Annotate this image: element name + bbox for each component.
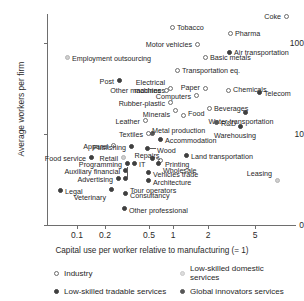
data-point[interactable]	[122, 206, 127, 211]
data-point[interactable]	[214, 120, 219, 125]
data-point[interactable]	[226, 88, 231, 93]
data-point[interactable]	[158, 137, 163, 142]
y-tick-mark	[44, 225, 48, 226]
data-point[interactable]	[203, 86, 208, 91]
data-point-label: Motor vehicles	[146, 41, 192, 48]
legend-label: Low-skilled tradable services	[64, 287, 166, 296]
data-point[interactable]	[121, 155, 126, 160]
data-point[interactable]	[195, 42, 200, 47]
y-tick-label: 100	[263, 39, 304, 48]
y-tick-label: 0	[263, 221, 304, 230]
data-point-label: Rubber-plastic	[119, 100, 165, 107]
label-leader-line	[127, 167, 128, 178]
x-tick-mark	[77, 225, 78, 229]
data-point[interactable]	[132, 161, 137, 166]
data-point[interactable]	[129, 144, 134, 149]
data-point[interactable]	[156, 161, 161, 166]
data-point-label: Telecom	[264, 90, 291, 97]
y-axis-title: Average workers per firm	[16, 34, 26, 184]
data-point-label: Land transportation	[191, 153, 253, 160]
x-tick-label: 0.1	[62, 231, 92, 240]
data-point[interactable]	[175, 68, 180, 73]
legend-item-industry[interactable]: Industry	[54, 264, 180, 282]
data-point[interactable]	[207, 106, 212, 111]
data-point-label: R&D	[221, 120, 236, 127]
x-axis-title: Capital use per worker relative to manuf…	[0, 246, 304, 255]
legend-item-global[interactable]: Global innovators services	[180, 287, 294, 296]
legend-item-lowtrade[interactable]: Low-skilled tradable services	[54, 287, 180, 296]
x-tick-mark	[173, 225, 174, 229]
data-point-label: Air transportation	[234, 49, 289, 56]
data-point[interactable]	[184, 153, 189, 158]
x-tick-label: 1	[158, 231, 188, 240]
data-point[interactable]	[168, 100, 173, 105]
data-point[interactable]	[117, 78, 122, 83]
data-point[interactable]	[109, 187, 114, 192]
data-point[interactable]	[123, 191, 128, 196]
legend-label: Industry	[64, 269, 92, 278]
data-point-label: Textiles	[119, 131, 143, 138]
legend-item-lowdom[interactable]: Low-skilled domestic services	[180, 264, 294, 282]
legend-swatch-icon	[180, 289, 185, 294]
data-point[interactable]	[203, 55, 208, 60]
data-point[interactable]	[227, 50, 232, 55]
data-point-label: Veterinary	[74, 194, 106, 201]
data-point[interactable]	[116, 176, 121, 181]
data-point-label: Metal production	[152, 127, 205, 134]
data-point-label: Minerals	[143, 111, 170, 118]
data-point-label: Post	[100, 78, 114, 85]
data-point-label: Tobacco	[177, 24, 204, 31]
data-point-label: IT	[139, 161, 145, 168]
legend-label: Low-skilled domestic services	[190, 264, 294, 282]
data-point-label: Advertising	[77, 176, 113, 183]
y-tick-mark	[44, 43, 48, 44]
data-point-label: Chemicals	[233, 86, 267, 93]
x-tick-label: 0.2	[90, 231, 120, 240]
data-point[interactable]	[146, 178, 151, 183]
data-point-label: Publishing	[93, 144, 126, 151]
data-point-label: Consultancy	[130, 192, 170, 199]
x-tick-label: 5	[240, 231, 270, 240]
data-point[interactable]	[145, 146, 150, 151]
data-point-label: Wood	[157, 147, 176, 154]
data-point-label: Other machines	[110, 87, 161, 94]
data-point-label: Accommodation	[165, 137, 217, 144]
data-point[interactable]	[257, 90, 262, 95]
data-point[interactable]	[238, 124, 243, 129]
data-point[interactable]	[58, 188, 63, 193]
data-point[interactable]	[65, 55, 70, 60]
y-tick-mark	[44, 134, 48, 135]
data-point-label: Transportation eq.	[182, 67, 240, 74]
data-point[interactable]	[170, 25, 175, 30]
x-axis-line	[47, 225, 296, 226]
x-tick-mark	[255, 225, 256, 229]
legend-swatch-icon	[180, 271, 185, 276]
legend-swatch-icon	[54, 289, 59, 294]
legend-swatch-icon	[54, 271, 59, 276]
data-point[interactable]	[125, 161, 130, 166]
data-point[interactable]	[284, 14, 289, 19]
data-point-label: Employment outsourcing	[72, 55, 151, 62]
data-point[interactable]	[143, 118, 148, 123]
data-point[interactable]	[89, 155, 94, 160]
x-tick-mark	[149, 225, 150, 229]
label-leader-line	[150, 148, 156, 149]
data-point-label: Warehousing	[214, 132, 256, 139]
data-point-label: Leather	[116, 118, 140, 125]
x-tick-label: 2	[193, 231, 223, 240]
data-point-label: Coke	[264, 13, 281, 20]
data-point-label: Pharma	[235, 30, 260, 37]
data-point[interactable]	[243, 110, 248, 115]
data-point-label: Other professional	[129, 207, 188, 214]
x-tick-mark	[105, 225, 106, 229]
data-point[interactable]	[228, 31, 233, 36]
data-point[interactable]	[275, 178, 280, 183]
x-tick-mark	[208, 225, 209, 229]
scatter-chart: Average workers per firm Capital use per…	[0, 0, 304, 301]
data-point[interactable]	[194, 93, 199, 98]
chart-legend: IndustryLow-skilled domestic servicesLow…	[54, 264, 294, 296]
data-point[interactable]	[173, 108, 178, 113]
data-point[interactable]	[146, 170, 151, 175]
data-point[interactable]	[181, 113, 186, 118]
data-point-label: Food	[188, 110, 204, 117]
